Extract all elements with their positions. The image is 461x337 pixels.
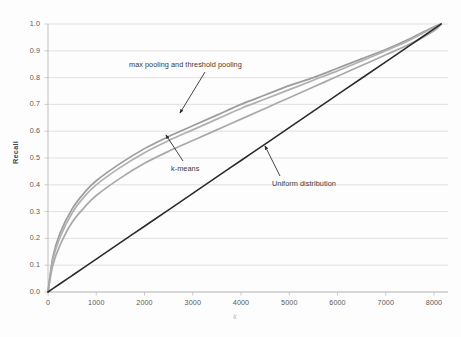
annotation-arrow [180,72,205,113]
y-tick-label: 0.9 [14,46,40,55]
annotation-k-means: k-means [171,164,199,173]
y-tick-label: 0.3 [14,207,40,216]
x-tick-label: 2000 [125,298,165,307]
annotation-arrow [265,146,280,176]
y-tick-label: 0.2 [14,233,40,242]
y-tick-label: 0.6 [14,126,40,135]
y-tick-label: 1.0 [14,19,40,28]
x-tick-label: 3000 [173,298,213,307]
y-tick-marks-group [45,24,49,292]
x-tick-label: 6000 [318,298,358,307]
y-tick-label: 0.8 [14,73,40,82]
recall-vs-k-chart: Recall k max pooling and threshold pooli… [0,0,461,337]
y-tick-label: 0.7 [14,99,40,108]
x-tick-label: 0 [28,298,68,307]
annotation-uniform-distribution: Uniform distribution [272,179,336,188]
x-tick-label: 8000 [414,298,454,307]
x-axis-title: k [215,313,255,320]
annotation-arrows-group [166,72,280,176]
y-tick-label: 0.5 [14,153,40,162]
y-tick-label: 0.4 [14,180,40,189]
x-tick-label: 1000 [76,298,116,307]
y-tick-label: 0.0 [14,287,40,296]
annotation-arrow [166,135,183,161]
x-tick-label: 4000 [221,298,261,307]
x-tick-label: 7000 [366,298,406,307]
x-tick-label: 5000 [269,298,309,307]
chart-plot-svg [0,0,461,337]
annotation-max-pooling-and-threshold-pooling: max pooling and threshold pooling [129,60,242,69]
x-tick-marks-group [48,292,434,296]
y-tick-label: 0.1 [14,260,40,269]
